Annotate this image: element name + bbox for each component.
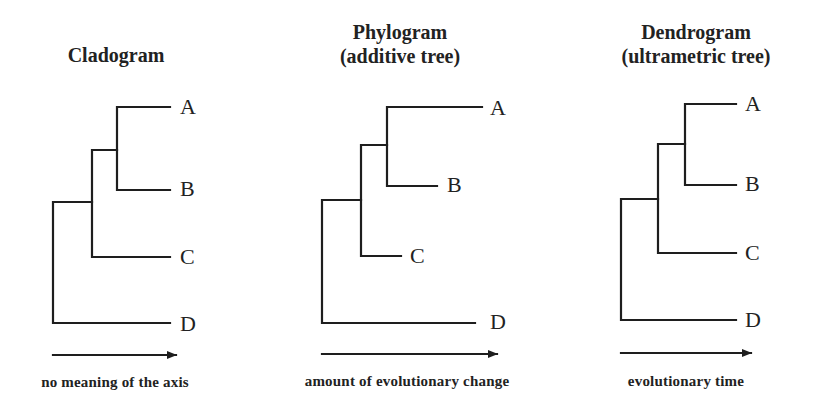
dendrogram-title-line1: Dendrogram: [622, 20, 771, 44]
dendrogram-taxon-c: C: [745, 242, 760, 264]
cladogram-taxon-c: C: [180, 246, 195, 268]
phylogram-taxon-c: C: [410, 245, 425, 267]
dendrogram-title: Dendrogram (ultrametric tree): [622, 20, 771, 68]
phylogram-taxon-d: D: [490, 311, 506, 333]
phylogram-axis-caption: amount of evolutionary change: [305, 373, 510, 390]
cladogram-title-line1: Cladogram: [68, 43, 165, 67]
phylogram-title: Phylogram (additive tree): [340, 20, 460, 68]
phylogram-taxon-a: A: [490, 97, 506, 119]
dendrogram-tree: [621, 104, 736, 320]
cladogram-title: Cladogram: [68, 43, 165, 67]
phylogram-title-line1: Phylogram: [340, 20, 460, 44]
dendrogram-axis-caption: evolutionary time: [628, 373, 744, 390]
cladogram-tree: [53, 107, 170, 323]
cladogram-taxon-d: D: [180, 313, 196, 335]
dendrogram-taxon-a: A: [745, 93, 761, 115]
cladogram-axis-caption: no meaning of the axis: [41, 374, 189, 391]
phylogram-tree: [322, 107, 482, 323]
dendrogram-title-line2: (ultrametric tree): [622, 44, 771, 68]
phylogram-title-line2: (additive tree): [340, 44, 460, 68]
dendrogram-taxon-b: B: [745, 173, 760, 195]
phylogram-taxon-b: B: [447, 174, 462, 196]
cladogram-taxon-b: B: [180, 178, 195, 200]
cladogram-taxon-a: A: [180, 96, 196, 118]
dendrogram-taxon-d: D: [745, 309, 761, 331]
